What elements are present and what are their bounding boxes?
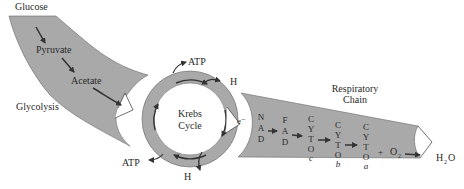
oxygen-label: O	[390, 146, 397, 157]
carrier-nad: N A D	[258, 112, 265, 144]
carrier-letter: D	[258, 134, 265, 144]
water-h: H	[436, 152, 443, 163]
h-top-label: H	[230, 76, 237, 87]
krebs-title-line1: Krebs	[178, 108, 202, 119]
krebs-ring-inner-edge	[154, 83, 226, 155]
atp-bottom-label: ATP	[122, 157, 140, 168]
carrier-subscript: c	[309, 153, 313, 163]
carrier-letter: T	[363, 142, 369, 152]
carrier-subscript: b	[336, 159, 341, 169]
carrier-letter: C	[308, 114, 314, 124]
respiratory-title-line2: Chain	[343, 94, 367, 105]
carrier-letter: C	[363, 122, 369, 132]
carrier-letter: A	[282, 126, 289, 136]
output-connector	[418, 126, 432, 158]
carrier-subscript: a	[364, 161, 369, 171]
oxygen-subscript: 2	[398, 153, 401, 159]
acetate-label: Acetate	[71, 75, 102, 86]
water-subscript: 2	[444, 159, 447, 165]
carrier-letter: Y	[308, 124, 315, 134]
carrier-letter: T	[308, 134, 314, 144]
electron-label: e⁻	[237, 116, 246, 126]
carrier-letter: N	[258, 112, 265, 122]
h-bottom-label: H	[184, 171, 191, 182]
carrier-letter: C	[335, 120, 341, 130]
carrier-letter: Y	[335, 130, 342, 140]
metabolism-diagram: Glucose Pyruvate Acetate Glycolysis Kreb…	[0, 0, 464, 189]
oxygen-to-water-arrow	[405, 154, 420, 155]
carrier-cyto-a: C Y T O a	[363, 122, 370, 171]
plus-sign: +	[378, 147, 383, 157]
fad-to-cytoc-arrow	[292, 135, 302, 136]
pyruvate-label: Pyruvate	[36, 44, 72, 55]
krebs-title-line2: Cycle	[178, 120, 202, 131]
water-o: O	[448, 152, 455, 163]
carrier-letter: A	[258, 123, 265, 133]
carrier-cyto-b: C Y T O b	[335, 120, 342, 169]
glucose-label: Glucose	[15, 1, 48, 12]
carrier-letter: F	[282, 115, 287, 125]
carrier-letter: Y	[363, 132, 370, 142]
glycolysis-label: Glycolysis	[16, 101, 59, 112]
carrier-letter: T	[335, 140, 341, 150]
atp-top-label: ATP	[188, 56, 206, 67]
respiratory-title-line1: Respiratory	[332, 83, 379, 94]
carrier-letter: D	[282, 137, 289, 147]
